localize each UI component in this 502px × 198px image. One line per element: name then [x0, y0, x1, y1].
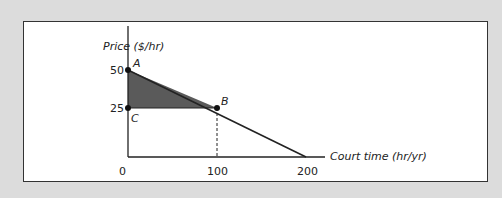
x-tick-100: 100 [207, 165, 228, 178]
label-a: A [132, 57, 141, 70]
y-tick-50: 50 [110, 64, 124, 77]
label-b: B [221, 95, 229, 108]
x-axis-label: Court time (hr/yr) [330, 150, 427, 163]
x-tick-0: 0 [119, 165, 126, 178]
point-a [125, 67, 131, 73]
point-c [125, 105, 131, 111]
y-axis-label: Price ($/hr) [103, 40, 164, 53]
x-tick-200: 200 [297, 165, 318, 178]
demand-chart: Price ($/hr) 50 25 A B C 0 100 200 Court… [0, 0, 502, 198]
y-tick-25: 25 [110, 102, 124, 115]
point-b [214, 105, 220, 111]
label-c: C [131, 112, 139, 125]
